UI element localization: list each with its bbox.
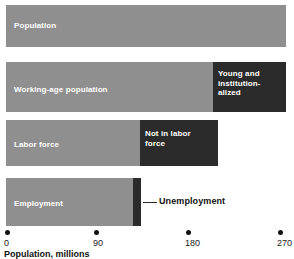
axis-tick-label-180: 180 (185, 238, 200, 248)
axis-tick-dot-icon (186, 230, 191, 235)
bar-row-employment: Employment (6, 178, 141, 226)
bar-segment-unemployment (133, 178, 141, 226)
bar-label-young-institutionalized: Young and institution- alized (218, 69, 261, 98)
axis-tick-dot-icon (278, 230, 283, 235)
axis-tick-dot-icon (94, 230, 99, 235)
axis-tick-dot-icon (5, 230, 10, 235)
bar-label-employment: Employment (14, 199, 63, 209)
bar-label-working-age: Working-age population (14, 85, 108, 95)
axis-tick-label-0: 0 (4, 238, 9, 248)
annotation-unemployment: Unemployment (159, 196, 225, 206)
axis-tick-label-270: 270 (277, 238, 292, 248)
bar-row-labor-force: Labor force Not in labor force (6, 120, 218, 166)
bar-label-not-in-labor-force: Not in labor force (145, 129, 191, 148)
bar-row-population: Population (6, 5, 286, 47)
x-axis-title: Population, millions (4, 249, 90, 259)
axis-tick-label-90: 90 (93, 238, 103, 248)
bar-label-population: Population (14, 21, 56, 31)
bar-label-labor-force: Labor force (14, 140, 59, 150)
bar-row-working-age: Working-age population Young and institu… (6, 62, 286, 112)
unemployment-leader-line (143, 202, 157, 203)
